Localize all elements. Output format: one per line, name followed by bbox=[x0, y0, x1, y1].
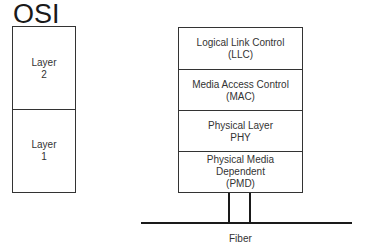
stack-layer-phy: Physical Layer PHY bbox=[179, 110, 302, 152]
osi-layer-2: Layer 2 bbox=[13, 27, 75, 110]
stack-layer-pmd: Physical Media Dependent (PMD) bbox=[179, 151, 302, 192]
osi-layer-1: Layer 1 bbox=[13, 109, 75, 192]
stack-layer-llc-label: Logical Link Control (LLC) bbox=[197, 37, 285, 61]
connector-line-right bbox=[249, 193, 251, 224]
fiber-label: Fiber bbox=[229, 233, 252, 244]
stack-layer-mac-label: Media Access Control (MAC) bbox=[192, 79, 289, 103]
stack-layer-phy-label: Physical Layer PHY bbox=[208, 120, 273, 144]
stack-layer-llc: Logical Link Control (LLC) bbox=[179, 28, 302, 70]
stack-layer-mac: Media Access Control (MAC) bbox=[179, 69, 302, 111]
protocol-stack-box: Logical Link Control (LLC) Media Access … bbox=[178, 27, 303, 193]
connector-line-left bbox=[228, 193, 230, 224]
osi-layer-box: Layer 2 Layer 1 bbox=[12, 26, 76, 193]
osi-layer-1-label: Layer 1 bbox=[31, 139, 56, 163]
stack-layer-pmd-label: Physical Media Dependent (PMD) bbox=[207, 154, 274, 190]
fiber-line bbox=[141, 222, 352, 224]
osi-layer-2-label: Layer 2 bbox=[31, 57, 56, 81]
